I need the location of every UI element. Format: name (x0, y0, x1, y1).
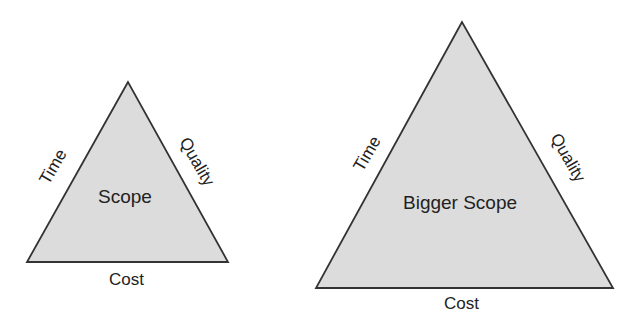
large-center-label: Bigger Scope (403, 192, 517, 214)
small-cost-label: Cost (109, 270, 144, 290)
diagram-canvas: Scope Time Quality Cost Bigger Scope Tim… (0, 0, 639, 320)
large-cost-label: Cost (444, 294, 479, 314)
small-center-label: Scope (98, 186, 152, 208)
triangles-svg (0, 0, 639, 320)
